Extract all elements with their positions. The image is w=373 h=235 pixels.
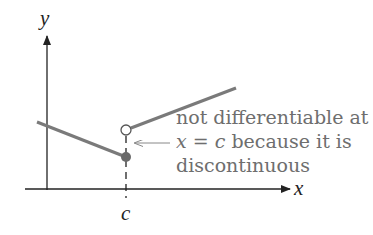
discontinuity-diagram: y x c not differentiable at x = c becaus…	[0, 0, 373, 235]
open-point	[121, 125, 131, 135]
left-segment	[37, 122, 126, 157]
annotation-c-var: c	[215, 130, 226, 152]
y-axis-label: y	[38, 6, 50, 30]
annotation-line-2-rest: because it is	[225, 130, 351, 152]
annotation-line-3: discontinuous	[176, 154, 310, 176]
annotation-line-2: x = c because it is	[176, 130, 352, 152]
filled-point	[121, 152, 131, 162]
annotation-equals: =	[187, 130, 215, 152]
x-axis-label: x	[293, 176, 304, 200]
annotation-line-1: not differentiable at	[176, 106, 369, 128]
c-tick-label: c	[121, 201, 131, 225]
annotation-x-var: x	[176, 130, 187, 152]
